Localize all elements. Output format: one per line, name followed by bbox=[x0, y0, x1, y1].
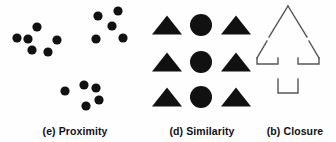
proximity-dot bbox=[60, 86, 69, 95]
similarity-circle bbox=[190, 51, 212, 73]
similarity-circle bbox=[190, 14, 212, 36]
proximity-dot bbox=[12, 33, 21, 42]
closure-segment-arrowhead-right-edge bbox=[288, 6, 307, 37]
caption-proximity: (e) Proximity bbox=[0, 124, 150, 138]
similarity-triangle bbox=[152, 53, 182, 72]
similarity-triangle bbox=[152, 16, 182, 35]
proximity-dot bbox=[79, 80, 88, 89]
proximity-dot bbox=[113, 6, 122, 15]
similarity-illustration bbox=[150, 0, 254, 118]
proximity-dot bbox=[43, 47, 52, 56]
closure-segment-barb-left-underside bbox=[257, 58, 278, 64]
proximity-dot bbox=[93, 11, 102, 20]
proximity-dot bbox=[23, 34, 32, 43]
similarity-circle bbox=[190, 86, 212, 108]
panel-proximity: (e) Proximity bbox=[0, 0, 150, 142]
proximity-dot bbox=[91, 34, 100, 43]
proximity-dot bbox=[91, 83, 100, 92]
caption-closure: (b) Closure bbox=[254, 124, 336, 138]
similarity-triangle bbox=[221, 53, 251, 72]
closure-segment-barb-right-edge bbox=[309, 41, 319, 58]
closure-segment-barb-left-edge bbox=[257, 41, 267, 58]
similarity-triangle bbox=[221, 88, 251, 107]
caption-similarity: (d) Similarity bbox=[150, 124, 254, 138]
proximity-illustration bbox=[0, 0, 150, 118]
panel-closure: (b) Closure bbox=[254, 0, 336, 142]
closure-illustration bbox=[254, 0, 336, 118]
closure-segment-arrowhead-left-edge bbox=[269, 6, 288, 37]
proximity-dot bbox=[52, 35, 61, 44]
proximity-dot bbox=[81, 101, 90, 110]
proximity-dot bbox=[118, 33, 127, 42]
proximity-dot bbox=[27, 45, 36, 54]
panel-similarity: (d) Similarity bbox=[150, 0, 254, 142]
gestalt-principles-figure: (e) Proximity (d) Similarity (b) Closure bbox=[0, 0, 336, 142]
similarity-triangle bbox=[221, 16, 251, 35]
proximity-dot bbox=[32, 22, 41, 31]
proximity-dot bbox=[94, 95, 103, 104]
similarity-triangle bbox=[152, 88, 182, 107]
proximity-dot bbox=[107, 21, 116, 30]
closure-segment-barb-right-underside bbox=[298, 58, 319, 64]
closure-segment-shaft-left-and-base bbox=[278, 79, 298, 93]
